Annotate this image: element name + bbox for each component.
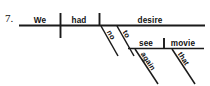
word-no: no [105, 29, 118, 42]
word-desire: desire [137, 16, 162, 25]
exercise-number: 7. [5, 12, 14, 24]
word-again: again [139, 50, 158, 72]
word-see: see [139, 39, 153, 48]
word-had: had [71, 16, 86, 25]
word-we: We [34, 16, 47, 25]
word-to: to [121, 29, 133, 40]
word-movie: movie [171, 39, 196, 48]
diagram-canvas: We had desire see movie no to again that… [0, 0, 210, 86]
sentence-diagram-figure: We had desire see movie no to again that… [0, 0, 210, 86]
